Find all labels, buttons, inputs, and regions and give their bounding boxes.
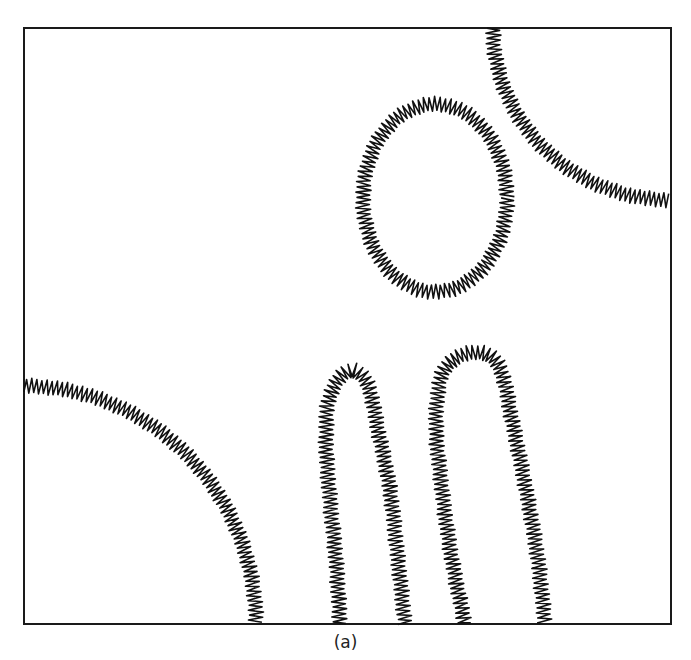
vesicle-circle — [356, 96, 515, 299]
finger-right — [429, 346, 552, 624]
figure-caption: (a) — [0, 632, 691, 652]
corner-arc-top-right — [486, 28, 669, 208]
finger-left — [318, 363, 411, 624]
figure-frame — [24, 28, 671, 624]
membrane-shapes — [24, 28, 669, 625]
membrane-diagram — [0, 0, 691, 660]
corner-arc-bottom-left — [24, 378, 264, 622]
